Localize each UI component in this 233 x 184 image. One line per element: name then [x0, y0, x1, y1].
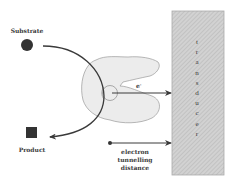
transducer-letter: d — [195, 89, 199, 97]
transducer-letter: n — [195, 69, 199, 77]
substrate-label: Substrate — [11, 27, 44, 34]
biosensor-diagram: transducer Substrate Product e- electron… — [0, 0, 233, 184]
tunnelling-label-line-3: distance — [121, 164, 150, 171]
product-label: Product — [19, 146, 46, 153]
enzyme-shape — [82, 57, 160, 123]
transducer-letter: u — [195, 99, 199, 107]
transducer-letter: t — [196, 38, 198, 46]
transducer-letter: s — [196, 79, 199, 87]
transducer: transducer — [172, 11, 224, 175]
product-icon — [26, 127, 37, 138]
tunnelling-label-line-2: tunnelling — [117, 156, 153, 164]
electron-label: e- — [136, 82, 142, 89]
transducer-letter: e — [195, 120, 198, 128]
tunnelling-label-line-1: electron — [121, 148, 150, 155]
substrate-icon — [21, 39, 33, 51]
transducer-letter: c — [195, 109, 198, 117]
